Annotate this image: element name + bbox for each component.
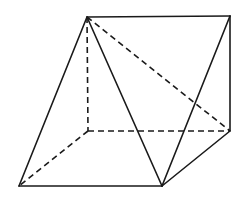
edge-AE	[19, 17, 87, 186]
edge-AF	[87, 17, 162, 186]
edge-FB	[162, 16, 230, 186]
prism-diagram	[0, 0, 247, 203]
edge-AB	[87, 16, 230, 17]
visible-edges	[19, 16, 230, 186]
hidden-edge-AC	[87, 17, 230, 131]
hidden-edge-AD	[87, 17, 88, 131]
